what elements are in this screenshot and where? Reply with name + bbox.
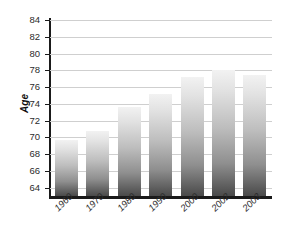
y-axis-tick (45, 121, 50, 122)
gridline (50, 70, 272, 71)
y-axis-tick (45, 171, 50, 172)
bar (55, 140, 78, 196)
y-axis-tick (45, 70, 50, 71)
y-axis-tick-label: 84 (18, 15, 40, 25)
y-axis-tick-label: 72 (18, 116, 40, 126)
bar (243, 75, 266, 196)
y-axis-tick-label: 76 (18, 82, 40, 92)
bar (181, 77, 204, 196)
gridline (50, 37, 272, 38)
bar (86, 131, 109, 196)
y-axis-tick (45, 37, 50, 38)
gridline (50, 20, 272, 21)
gridline (50, 54, 272, 55)
bar-chart: Age 6466687072747678808284 1960197019801… (0, 0, 281, 241)
y-axis-tick (45, 104, 50, 105)
y-axis-tick-label: 64 (18, 183, 40, 193)
y-axis-tick-label: 70 (18, 132, 40, 142)
y-axis-tick (45, 188, 50, 189)
y-axis-tick-label: 66 (18, 166, 40, 176)
y-axis-tick-label: 82 (18, 32, 40, 42)
bar (118, 107, 141, 196)
y-axis-tick-label: 68 (18, 149, 40, 159)
y-axis-tick (45, 87, 50, 88)
bar (212, 70, 235, 196)
y-axis-tick-label: 78 (18, 65, 40, 75)
bar (149, 94, 172, 196)
plot-area: 6466687072747678808284 (50, 20, 272, 196)
y-axis-tick (45, 54, 50, 55)
y-axis-tick-label: 80 (18, 49, 40, 59)
y-axis-tick (45, 137, 50, 138)
gridline (50, 87, 272, 88)
y-axis-tick (45, 154, 50, 155)
y-axis-tick-label: 74 (18, 99, 40, 109)
y-axis-tick (45, 20, 50, 21)
